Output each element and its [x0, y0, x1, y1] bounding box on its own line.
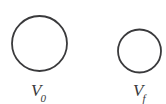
- final-volume-circle: [118, 30, 161, 73]
- figure-container: V0 Vf: [0, 0, 166, 104]
- initial-volume-label: V0: [31, 82, 47, 102]
- final-volume-subscript: f: [142, 92, 145, 104]
- initial-volume-circle: [12, 16, 67, 71]
- final-volume-label: Vf: [133, 82, 146, 102]
- initial-volume-subscript: 0: [40, 92, 46, 104]
